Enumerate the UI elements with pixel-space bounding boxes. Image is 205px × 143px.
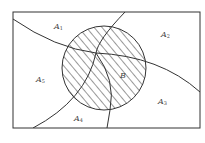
region-label-a5: A5 <box>36 76 45 84</box>
region-label-a4: A4 <box>74 115 83 123</box>
diagram-canvas <box>0 0 205 143</box>
region-label-a1: A1 <box>54 23 63 31</box>
event-label-b: B <box>120 72 126 80</box>
region-label-a2: A2 <box>161 31 170 39</box>
region-label-a3: A3 <box>158 98 167 106</box>
partition-diagram: A1 A2 A3 A4 A5 B <box>0 0 205 143</box>
